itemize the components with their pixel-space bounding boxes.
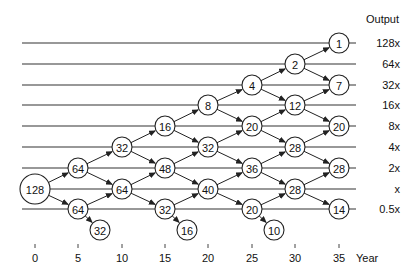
arrow-edge: [174, 110, 198, 122]
axis-tick-label: 30: [289, 252, 301, 264]
value-node: 4: [242, 75, 262, 95]
arrow-edge: [131, 173, 155, 185]
value-node: 1: [329, 33, 349, 53]
arrow-edge: [217, 109, 242, 121]
arrow-edge: [261, 130, 285, 142]
axis-tick-label: 10: [116, 252, 128, 264]
node-value: 20: [246, 204, 258, 216]
arrow-edge: [85, 216, 92, 223]
arrow-edge: [217, 193, 242, 204]
node-value: 8: [205, 100, 211, 112]
axis-tick-label: 0: [32, 252, 38, 264]
node-value: 28: [333, 163, 345, 175]
level-label: 16x: [382, 99, 400, 111]
value-node: 20: [242, 199, 262, 219]
value-node: 64: [68, 199, 88, 219]
level-label: 128x: [376, 37, 400, 49]
arrow-edge: [261, 89, 285, 100]
arrow-edge: [261, 194, 285, 205]
arrow-edge: [174, 130, 198, 142]
value-node: 40: [198, 179, 218, 199]
arrow-edge: [304, 131, 329, 143]
node-value: 16: [159, 121, 171, 133]
value-node: 8: [198, 95, 218, 115]
axis-tick-label: 15: [159, 252, 171, 264]
node-value: 7: [336, 80, 342, 92]
node-value: 32: [202, 142, 214, 154]
value-node: 16: [177, 220, 197, 240]
arrow-edges: [48, 48, 329, 223]
arrow-edge: [174, 152, 198, 164]
arrow-edge: [217, 151, 242, 163]
value-node: 16: [155, 116, 175, 136]
level-label: 8x: [388, 120, 400, 132]
arrow-edge: [217, 90, 242, 101]
arrow-edge: [87, 194, 112, 205]
node-value: 1: [336, 38, 342, 50]
arrow-edge: [261, 172, 285, 184]
arrow-edge: [261, 152, 285, 164]
value-node: 64: [112, 179, 132, 199]
output-distribution-diagram: Output 128x64x32x16x8x4x2xx0.5x 12864643…: [0, 0, 409, 272]
node-value: 40: [202, 184, 214, 196]
arrow-edge: [172, 216, 179, 223]
node-value: 64: [116, 184, 128, 196]
node-value: 4: [249, 80, 255, 92]
node-value: 10: [268, 225, 280, 237]
value-node: 28: [285, 179, 305, 199]
node-value: 20: [246, 121, 258, 133]
axis-tick-label: 35: [333, 252, 345, 264]
node-value: 16: [181, 225, 193, 237]
axis-title: Year: [356, 252, 379, 264]
arrow-edge: [304, 68, 329, 80]
level-label: x: [395, 183, 401, 195]
arrow-edge: [48, 173, 68, 183]
axis-tick-label: 25: [246, 252, 258, 264]
arrow-edge: [304, 109, 329, 121]
arrow-edge: [261, 69, 285, 81]
level-label: 32x: [382, 79, 400, 91]
node-value: 48: [159, 163, 171, 175]
node-value: 128: [26, 184, 44, 196]
value-node: 128: [20, 174, 50, 204]
axis-tick-label: 5: [75, 252, 81, 264]
arrow-edge: [87, 152, 112, 164]
arrow-edge: [304, 151, 329, 163]
output-header-label: Output: [366, 13, 399, 25]
arrow-edge: [261, 110, 285, 122]
value-node: 10: [264, 220, 284, 240]
arrow-edge: [304, 173, 329, 185]
level-label: 4x: [388, 141, 400, 153]
arrow-edge: [304, 193, 329, 204]
value-node: 48: [155, 158, 175, 178]
node-value: 64: [72, 163, 84, 175]
node-value: 28: [289, 184, 301, 196]
value-node: 36: [242, 158, 262, 178]
year-axis: 05101520253035Year: [32, 244, 379, 264]
node-value: 32: [94, 225, 106, 237]
value-node: 7: [329, 75, 349, 95]
value-node: 2: [285, 54, 305, 74]
arrow-edge: [217, 131, 242, 143]
node-value: 2: [292, 59, 298, 71]
value-node: 28: [285, 137, 305, 157]
value-node: 20: [242, 116, 262, 136]
level-label: 2x: [388, 162, 400, 174]
arrow-edge: [174, 172, 198, 184]
arrow-edge: [174, 194, 198, 205]
arrow-edge: [87, 172, 112, 184]
node-value: 20: [333, 121, 345, 133]
arrow-edge: [304, 48, 329, 60]
value-node: 32: [198, 137, 218, 157]
value-node: 64: [68, 158, 88, 178]
level-label: 0.5x: [379, 203, 400, 215]
node-value: 14: [333, 204, 345, 216]
value-node: 28: [329, 158, 349, 178]
value-node: 12: [285, 95, 305, 115]
value-node: 14: [329, 199, 349, 219]
node-value: 36: [246, 163, 258, 175]
node-value: 28: [289, 142, 301, 154]
value-node: 32: [90, 220, 110, 240]
value-node: 32: [155, 199, 175, 219]
value-node: 20: [329, 116, 349, 136]
